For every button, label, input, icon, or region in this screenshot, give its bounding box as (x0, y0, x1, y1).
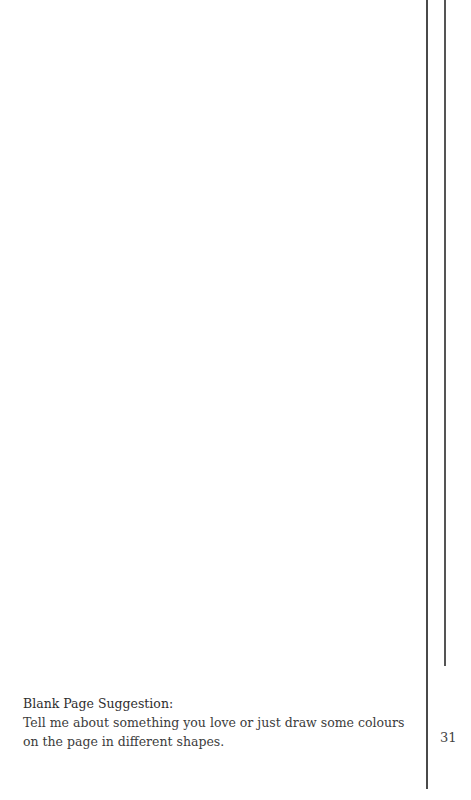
blank-page-suggestion: Blank Page Suggestion: Tell me about som… (23, 694, 413, 751)
margin-line-right (444, 0, 446, 666)
suggestion-body: Tell me about something you love or just… (23, 713, 413, 751)
page-number: 31 (440, 730, 457, 745)
margin-line-left (426, 0, 428, 789)
suggestion-title: Blank Page Suggestion: (23, 694, 413, 713)
